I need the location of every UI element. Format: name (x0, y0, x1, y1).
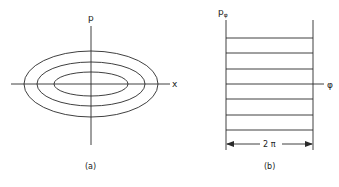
p-phi-axis-label: pφ (218, 7, 228, 19)
x-axis-label: x (172, 79, 178, 89)
p-phi-subscript: φ (224, 11, 228, 19)
panel-b: 2 π pφ φ (b) (218, 7, 333, 171)
caption-a: (a) (85, 162, 96, 171)
phi-axis-label: φ (327, 80, 333, 90)
panel-a: p x (a) (11, 13, 178, 171)
p-axis-label: p (88, 13, 94, 23)
period-label: 2 π (263, 140, 276, 149)
phase-space-figure: p x (a) 2 π pφ φ (b) (0, 0, 339, 187)
caption-b: (b) (264, 162, 275, 171)
